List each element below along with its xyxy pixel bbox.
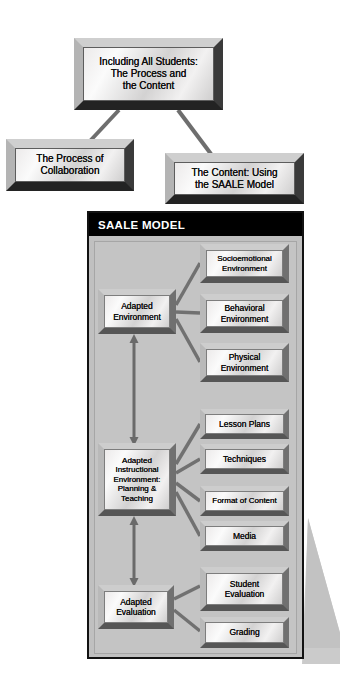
node-techniques[interactable]: Techniques — [200, 444, 289, 474]
node-content-saale-model[interactable]: The Content: Using the SAALE Model — [165, 153, 304, 204]
node-including-all-students[interactable]: Including All Students: The Process and … — [74, 38, 223, 110]
node-student-evaluation[interactable]: Student Evaluation — [200, 567, 289, 611]
node-label: Student Evaluation — [222, 579, 268, 599]
node-label: Format of Content — [209, 496, 279, 505]
node-adapted-instructional-environment[interactable]: Adapted Instructional Environment: Plann… — [98, 443, 176, 516]
node-behavioral-environment[interactable]: Behavioral Environment — [200, 294, 289, 333]
node-label: Physical Environment — [218, 352, 272, 372]
node-label: Media — [230, 531, 259, 541]
node-label: Adapted Environment — [110, 301, 164, 321]
node-adapted-evaluation[interactable]: Adapted Evaluation — [98, 585, 174, 629]
node-media[interactable]: Media — [200, 521, 289, 551]
node-socioemotional-environment[interactable]: Socioemotional Environment — [200, 244, 289, 283]
node-format-of-content[interactable]: Format of Content — [200, 486, 289, 516]
node-lesson-plans[interactable]: Lesson Plans — [200, 409, 289, 439]
node-process-of-collaboration[interactable]: The Process of Collaboration — [6, 139, 134, 191]
node-label: The Process of Collaboration — [33, 153, 106, 177]
node-adapted-environment[interactable]: Adapted Environment — [98, 289, 176, 334]
node-label: Behavioral Environment — [218, 303, 272, 323]
node-label: The Content: Using the SAALE Model — [188, 167, 280, 191]
node-label: Adapted Evaluation — [113, 597, 159, 617]
node-physical-environment[interactable]: Physical Environment — [200, 343, 289, 382]
node-label: Adapted Instructional Environment: Plann… — [110, 456, 163, 503]
node-label: Lesson Plans — [216, 419, 273, 429]
diagram-canvas: Including All Students: The Process and … — [0, 0, 340, 687]
node-label: Socioemotional Environment — [214, 254, 275, 273]
node-label: Including All Students: The Process and … — [96, 56, 200, 91]
node-label: Grading — [226, 627, 262, 637]
node-grading[interactable]: Grading — [200, 617, 289, 648]
saale-model-title: SAALE MODEL — [98, 219, 185, 231]
node-label: Techniques — [220, 454, 269, 464]
saale-model-header: SAALE MODEL — [89, 213, 302, 236]
